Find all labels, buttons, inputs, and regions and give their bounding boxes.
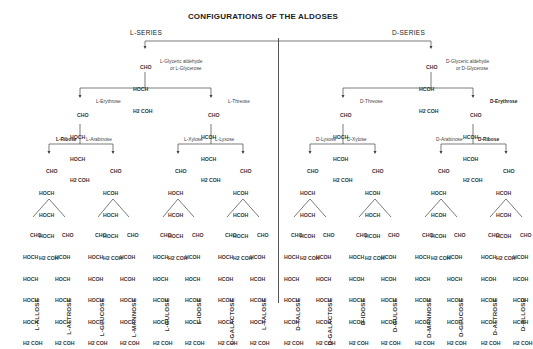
l-idose-name: L-IDOSE — [195, 298, 202, 325]
d-glucose-name: D-GLUCOSE — [457, 298, 464, 337]
l-threose-structure: CHO HCOH HOCH H2 COH — [201, 98, 221, 192]
l-xylose-label: L-Xylose — [184, 137, 203, 142]
l-threose-label: L-Threose — [228, 99, 250, 104]
d-erythrose-structure: CHO HCOH HCOH H2 COH — [463, 98, 483, 192]
d-arabinose-label: D-Arabinose — [436, 137, 463, 142]
d-talose-name: D-TALOSE — [294, 298, 301, 331]
d-glycerose-label: or D-Glycerose — [456, 66, 488, 71]
d-idose-name: D-IDOSE — [359, 298, 366, 325]
l-talose-name: L-TALOSE — [260, 298, 267, 330]
l-allose-name: L-ALLOSE — [33, 298, 40, 331]
l-arabinose-label: L-Arabinose — [86, 137, 112, 142]
d-gulose-name: D-GULOSE — [391, 298, 398, 332]
l-glucose-name: L-GLUCOSE — [98, 298, 105, 336]
l-gulose-name: L-GULOSE — [163, 298, 170, 332]
l-altrose-name: L-ALTROSE — [65, 298, 72, 335]
d-mannose-name: D-MANNOSE — [425, 298, 432, 338]
l-erythrose-structure: CHO HOCH HOCH H2 COH — [70, 98, 90, 192]
l-glycerose-label: or L-Glycerose — [170, 66, 201, 71]
d-xylose-label: D-Xylose — [347, 137, 366, 142]
l-glyceraldehyde-label: L-Glyceric aldehyde — [160, 59, 202, 64]
d-threose-label: D-Threose — [360, 99, 383, 104]
l-ribose-label: L-Ribose — [56, 137, 77, 142]
l-galactose-name: L-GALACTOSE — [228, 298, 235, 345]
d-lyxose-label: D-Lyxose — [316, 137, 336, 142]
l-erythrose-label: L-Erythrose — [96, 99, 121, 104]
d-glyceraldehyde-structure: CHO HCOH H2 COH — [419, 50, 439, 122]
l-lyxose-label: L-Lyxose — [215, 137, 234, 142]
l-mannose-name: L-MANNOSE — [130, 298, 137, 337]
d-idose-structure: CHO HOCH HCOH HOCH HCOH H2 COH — [349, 218, 369, 349]
d-galactose-name: D-GALACTOSE — [326, 298, 333, 345]
l-glyceraldehyde-structure: CHO HOCH H2 COH — [133, 50, 153, 122]
d-glyceraldehyde-label: D-Glyceric aldehyde — [446, 59, 489, 64]
d-altrose-name: D-ALTROSE — [491, 298, 498, 335]
d-erythrose-label: D-Erythrose — [490, 99, 517, 104]
d-ribose-label: D-Ribose — [478, 137, 499, 142]
d-threose-structure: CHO HOCH HCOH H2 COH — [333, 98, 353, 192]
d-allose-name: D-ALLOSE — [519, 298, 526, 331]
l-idose-structure: CHO HCOH HOCH HCOH HOCH H2 COH — [185, 218, 205, 349]
